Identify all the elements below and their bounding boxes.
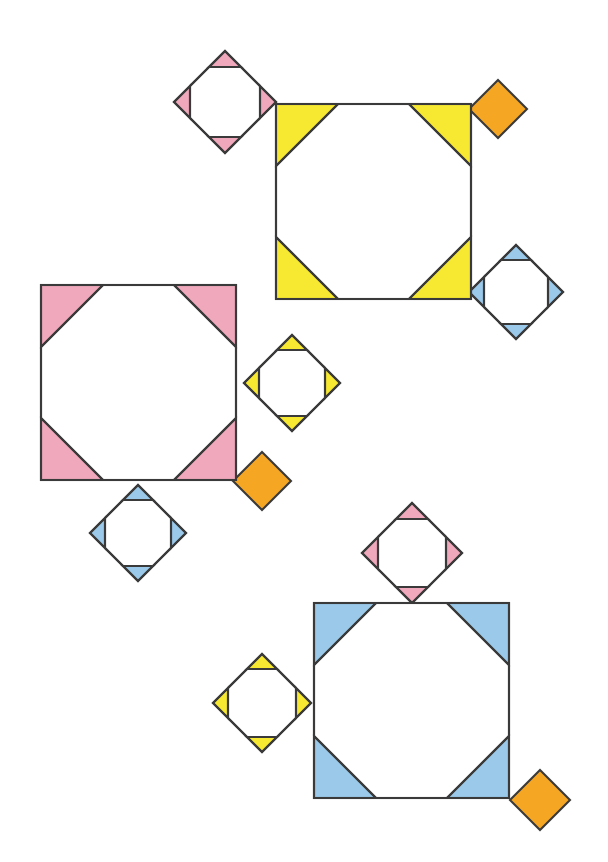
big-square-blue bbox=[314, 603, 509, 798]
big-square-yellow bbox=[276, 104, 471, 299]
geometric-figure-canvas bbox=[0, 0, 608, 862]
big-square-pink bbox=[41, 285, 236, 480]
